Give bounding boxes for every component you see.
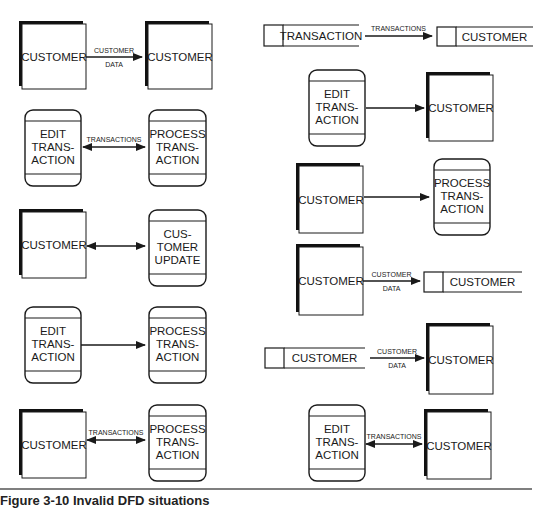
external-entity: CUSTOMER	[145, 21, 213, 89]
shape-label: TRANSACTION	[280, 30, 362, 42]
shape-label: TRANS-	[156, 436, 199, 448]
shape-label: TRANS-	[316, 101, 359, 113]
process: EDITTRANS-ACTION	[25, 110, 81, 186]
flow-label: TRANSACTIONS	[89, 429, 144, 436]
shape-label: TRANS-	[32, 141, 75, 153]
flow-label: DATA	[388, 362, 406, 369]
shape-label: CUSTOMER	[462, 31, 528, 43]
shape-label: CUSTOMER	[147, 51, 213, 63]
data-flow-arrow: CUSTOMERDATA	[370, 348, 424, 369]
flow-label: TRANSACTIONS	[371, 25, 426, 32]
shape-label: TRANS-	[441, 190, 484, 202]
external-entity: CUSTOMER	[19, 21, 87, 89]
shape-label: PROCESS	[434, 177, 491, 189]
shape-label: PROCESS	[149, 128, 206, 140]
shape-label: UPDATE	[155, 254, 201, 266]
flow-label: CUSTOMER	[372, 271, 412, 278]
external-entity: CUSTOMER	[426, 323, 494, 394]
process: PROCESSTRANS-ACTION	[149, 405, 206, 481]
figure-caption: Figure 3-10 Invalid DFD situations	[0, 493, 209, 508]
flow-label: TRANSACTIONS	[367, 433, 422, 440]
external-entity: CUSTOMER	[296, 163, 364, 233]
process: EDITTRANS-ACTION	[25, 307, 81, 383]
shape-label: ACTION	[156, 351, 199, 363]
shape-label: ACTION	[31, 351, 74, 363]
shape-label: ACTION	[156, 449, 199, 461]
shape-label: EDIT	[324, 88, 350, 100]
process: PROCESSTRANS-ACTION	[149, 110, 206, 186]
shape-label: EDIT	[324, 423, 350, 435]
process: EDITTRANS-ACTION	[309, 405, 365, 481]
shape-label: ACTION	[315, 449, 358, 461]
external-entity: CUSTOMER	[19, 209, 87, 278]
shape-label: TOMER	[157, 241, 198, 253]
shape-label: CUSTOMER	[450, 276, 516, 288]
data-flow-arrow: CUSTOMERDATA	[86, 47, 142, 68]
data-flow-arrow: CUSTOMERDATA	[363, 271, 420, 292]
data-store: CUSTOMER	[424, 272, 522, 292]
shape-label: CUSTOMER	[292, 352, 358, 364]
shape-label: CUSTOMER	[428, 354, 494, 366]
external-entity: CUSTOMER	[424, 409, 492, 479]
shape-label: ACTION	[31, 154, 74, 166]
data-flow-arrow: TRANSACTIONS	[366, 433, 422, 444]
flow-label: DATA	[105, 61, 123, 68]
shape-label: CUS-	[163, 228, 191, 240]
flow-label: CUSTOMER	[377, 348, 417, 355]
shape-label: TRANS-	[32, 338, 75, 350]
flow-label: TRANSACTIONS	[87, 136, 142, 143]
shape-label: CUSTOMER	[298, 194, 364, 206]
shape-label: TRANS-	[156, 338, 199, 350]
data-store: CUSTOMER	[265, 348, 365, 368]
external-entity: CUSTOMER	[426, 72, 494, 141]
shape-label: PROCESS	[149, 325, 206, 337]
shape-label: CUSTOMER	[21, 51, 87, 63]
shape-label: ACTION	[440, 203, 483, 215]
shape-label: ACTION	[156, 154, 199, 166]
shape-label: TRANS-	[156, 141, 199, 153]
shape-label: CUSTOMER	[426, 440, 492, 452]
process: CUS-TOMERUPDATE	[149, 210, 206, 286]
shape-label: CUSTOMER	[298, 275, 364, 287]
flow-label: CUSTOMER	[94, 47, 134, 54]
data-flow-arrow: TRANSACTIONS	[365, 25, 432, 36]
shape-label: CUSTOMER	[21, 239, 87, 251]
shape-label: EDIT	[40, 325, 66, 337]
shape-label: PROCESS	[149, 423, 206, 435]
flow-label: DATA	[383, 285, 401, 292]
data-flow-arrow: TRANSACTIONS	[87, 429, 145, 440]
process: PROCESSTRANS-ACTION	[434, 159, 491, 235]
external-entity: CUSTOMER	[296, 244, 364, 315]
data-store: TRANSACTION	[264, 25, 362, 46]
process: EDITTRANS-ACTION	[309, 70, 365, 146]
shape-label: CUSTOMER	[428, 102, 494, 114]
data-store: CUSTOMER	[437, 27, 533, 46]
shape-label: EDIT	[40, 128, 66, 140]
shape-label: ACTION	[315, 114, 358, 126]
process: PROCESSTRANS-ACTION	[149, 307, 206, 383]
data-flow-arrow: TRANSACTIONS	[83, 136, 145, 147]
shape-label: CUSTOMER	[21, 439, 87, 451]
external-entity: CUSTOMER	[19, 409, 87, 478]
shape-label: TRANS-	[316, 436, 359, 448]
